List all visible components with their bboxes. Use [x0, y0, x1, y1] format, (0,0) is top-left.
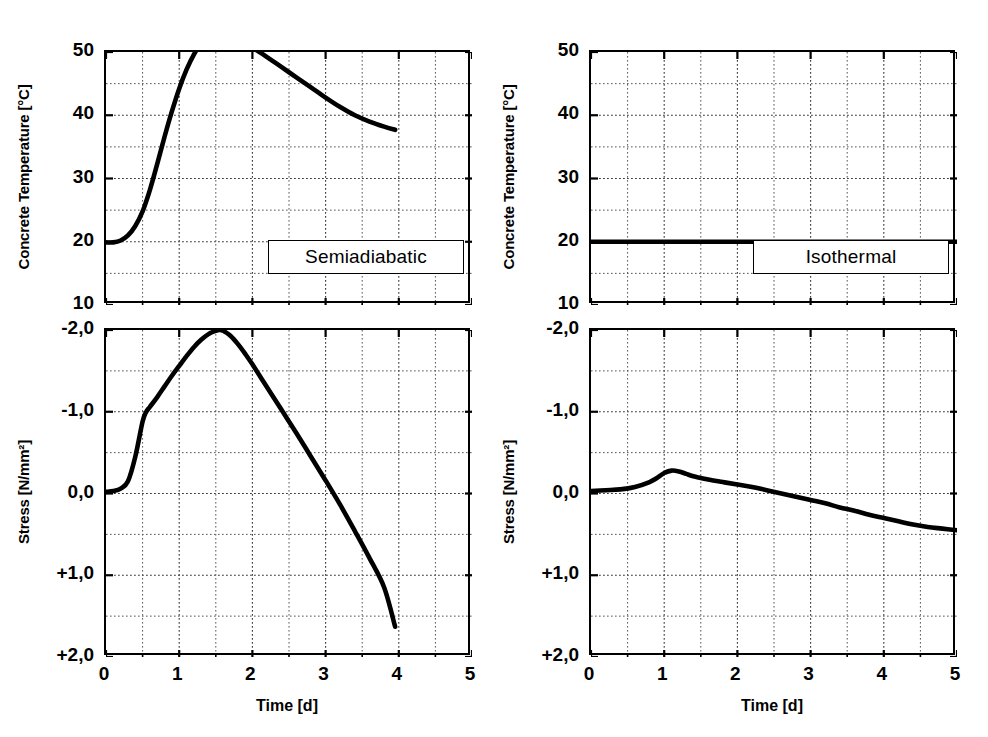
- legend-box: Semiadiabatic: [268, 240, 464, 274]
- gridlines: [106, 330, 472, 657]
- figure-canvas: 1020304050Concrete Temperature [°C]Semia…: [0, 0, 988, 737]
- data-curve: [106, 330, 395, 627]
- y-tick-label: +2,0: [527, 644, 579, 666]
- x-tick-label: 0: [584, 663, 595, 685]
- x-axis-label: Time [d]: [104, 697, 470, 715]
- y-tick-label: 50: [527, 39, 579, 61]
- y-axis-label: Concrete Temperature [°C]: [15, 84, 32, 269]
- plot-semiadiabatic-stress: [106, 330, 472, 657]
- plot-isothermal-stress: [591, 330, 957, 657]
- y-tick-label: 20: [42, 229, 94, 251]
- y-tick-label: 30: [42, 166, 94, 188]
- x-tick-label: 5: [950, 663, 961, 685]
- x-tick-label: 1: [172, 663, 183, 685]
- x-tick-label: 4: [877, 663, 888, 685]
- y-tick-label: -1,0: [527, 399, 579, 421]
- y-tick-label: 40: [527, 102, 579, 124]
- y-tick-label: 20: [527, 229, 579, 251]
- x-tick-label: 0: [99, 663, 110, 685]
- x-axis-label: Time [d]: [589, 697, 955, 715]
- x-tick-label: 1: [657, 663, 668, 685]
- y-tick-label: +1,0: [527, 562, 579, 584]
- y-tick-label: -2,0: [527, 317, 579, 339]
- x-tick-label: 3: [803, 663, 814, 685]
- y-tick-label: 50: [42, 39, 94, 61]
- y-tick-label: 10: [527, 292, 579, 314]
- legend-box: Isothermal: [753, 240, 949, 274]
- y-tick-label: 0,0: [42, 481, 94, 503]
- x-tick-label: 2: [245, 663, 256, 685]
- y-tick-label: -1,0: [42, 399, 94, 421]
- y-tick-label: -2,0: [42, 317, 94, 339]
- x-tick-label: 5: [465, 663, 476, 685]
- y-tick-label: +1,0: [42, 562, 94, 584]
- x-tick-label: 4: [392, 663, 403, 685]
- x-tick-label: 3: [318, 663, 329, 685]
- y-tick-label: 10: [42, 292, 94, 314]
- y-axis-label: Concrete Temperature [°C]: [500, 84, 517, 269]
- y-tick-label: 0,0: [527, 481, 579, 503]
- y-tick-label: 30: [527, 166, 579, 188]
- plot-frame-isothermal-stress: [589, 328, 955, 655]
- y-axis-label: Stress [N/mm²]: [15, 440, 32, 544]
- y-tick-label: +2,0: [42, 644, 94, 666]
- plot-frame-semiadiabatic-stress: [104, 328, 470, 655]
- y-tick-label: 40: [42, 102, 94, 124]
- x-tick-label: 2: [730, 663, 741, 685]
- y-axis-label: Stress [N/mm²]: [500, 440, 517, 544]
